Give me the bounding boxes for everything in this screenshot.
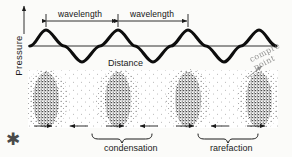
asterisk-star-icon: ✱ [6, 131, 20, 148]
sound-wave-figure: Pressure [0, 0, 292, 157]
rarefaction-brace [198, 134, 258, 143]
x-axis-label: Distance [108, 58, 143, 68]
condensation-label: condensation [104, 143, 158, 153]
wavelength-label-2: wavelength [130, 9, 174, 19]
rarefaction-label: rarefaction [210, 143, 253, 153]
particle-field [28, 70, 278, 128]
condensation-brace [92, 134, 152, 143]
figure-canvas [0, 0, 292, 157]
wavelength-label-1: wavelength [58, 9, 102, 19]
